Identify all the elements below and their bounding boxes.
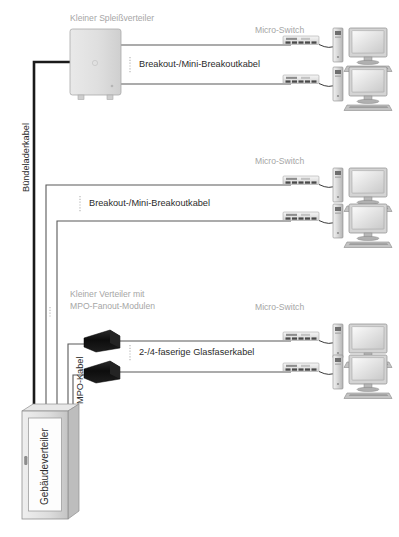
cable-breakout-4 bbox=[57, 221, 291, 418]
micro-switch-2[interactable] bbox=[283, 75, 319, 84]
page-title-splice-distributor: Kleiner Spleißverteiler bbox=[70, 14, 154, 23]
micro-switch-5[interactable] bbox=[283, 332, 319, 341]
micro-switch-1[interactable] bbox=[283, 36, 319, 45]
workstation-4[interactable] bbox=[333, 204, 392, 248]
label-trunk-cable: Bündeladerkabel bbox=[22, 123, 31, 192]
label-cable-breakout-1: Breakout-/Mini-Breakoutkabel bbox=[139, 60, 260, 69]
mpo-fanout-module-2[interactable] bbox=[84, 361, 120, 383]
building-distributor[interactable] bbox=[22, 404, 79, 519]
label-distributor-mpo-line2: MPO-Fanout-Modulen bbox=[70, 302, 155, 311]
diagram-graphics bbox=[0, 0, 399, 537]
label-micro-switch-2: Micro-Switch bbox=[255, 157, 304, 166]
label-micro-switch-1: Micro-Switch bbox=[255, 26, 304, 35]
label-distributor-mpo-line1: Kleiner Verteiler mit bbox=[70, 290, 145, 299]
label-cable-fiber: 2-/4-faserige Glasfaserkabel bbox=[139, 348, 254, 357]
workstation-6[interactable] bbox=[333, 355, 392, 399]
splice-distributor[interactable] bbox=[70, 29, 121, 100]
label-micro-switch-3: Micro-Switch bbox=[255, 303, 304, 312]
label-building-distributor: Gebäudeverteiler bbox=[40, 428, 50, 505]
workstation-1[interactable] bbox=[333, 28, 392, 72]
label-mpo-cable: MPO-Kabel bbox=[76, 357, 85, 405]
micro-switch-4[interactable] bbox=[283, 212, 319, 221]
network-diagram-canvas: Kleiner Spleißverteiler Micro-Switch Mic… bbox=[0, 0, 399, 537]
mpo-fanout-module-1[interactable] bbox=[84, 330, 120, 352]
micro-switch-6[interactable] bbox=[283, 363, 319, 372]
label-cable-breakout-2: Breakout-/Mini-Breakoutkabel bbox=[89, 199, 210, 208]
workstation-2[interactable] bbox=[333, 67, 392, 111]
micro-switch-3[interactable] bbox=[283, 176, 319, 185]
